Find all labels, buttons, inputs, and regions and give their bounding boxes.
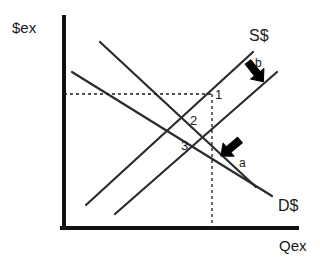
shift-arrows-group (215, 57, 270, 163)
supply-curve-original (86, 52, 253, 205)
demand-curves-group (72, 42, 272, 196)
shift-arrow-b-label: b (255, 56, 262, 70)
supply-curves-group (86, 52, 277, 214)
equilibrium-point-3-label: 3 (181, 138, 188, 153)
axes-group (62, 17, 297, 228)
demand-curve-shifted (72, 72, 272, 196)
diagram-canvas: $ex Qex S$ D$ 1 2 3 b a (0, 0, 320, 263)
exchange-rate-supply-demand-diagram: $ex Qex S$ D$ 1 2 3 b a (0, 0, 320, 263)
supply-curve-label: S$ (249, 27, 269, 44)
supply-curve-shifted (115, 72, 277, 214)
demand-curve-original (100, 42, 256, 187)
demand-curve-label: D$ (278, 197, 299, 214)
equilibrium-point-1-label: 1 (215, 87, 222, 102)
x-axis-label: Qex (279, 237, 307, 254)
y-axis-label: $ex (12, 19, 37, 36)
shift-arrow-a-label: a (239, 156, 246, 170)
equilibrium-point-2-label: 2 (190, 113, 197, 128)
